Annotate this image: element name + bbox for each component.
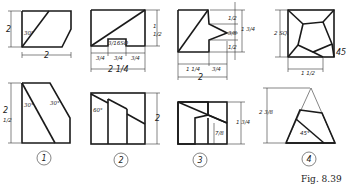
p2-dim-2: 3/4	[114, 55, 123, 61]
problem-2-top-view: 1 1/2 3/16SQ 3/4 3/4 3/4 2 1/4	[91, 10, 162, 74]
p3-overall-dim: 2	[198, 73, 203, 82]
p2-front-angle: 60°	[93, 107, 103, 113]
p2-front-height-dim: 2	[155, 114, 160, 123]
problem-2-number: 2	[118, 156, 123, 165]
p2-dim-3: 3/4	[131, 55, 140, 61]
p2-slot-label: 3/16SQ	[108, 40, 129, 46]
p3-dim-r3: 1/2	[228, 44, 237, 50]
technical-drawing: 2 30° 2 2 1/2 30° 30° 1 1 1/2 3/16SQ 3/4	[0, 0, 351, 189]
p3-dim-b1: 1 1/4	[186, 66, 201, 72]
p1-front-height-frac: 1/2	[3, 117, 12, 123]
p4-size-dim: 2 SQ.	[274, 30, 289, 36]
p1-top-height-dim: 2	[6, 25, 11, 34]
p1-front-angle-left: 30°	[24, 102, 34, 108]
p4-front-height-dim: 2 3/8	[259, 109, 274, 115]
problem-3-top-view: 1/2 3/8 1/2 1 3/4 1 1/4 3/4 2	[178, 2, 256, 82]
problem-1-number: 1	[41, 154, 46, 163]
p3-front-height-dim: 1 3/4	[236, 119, 251, 125]
p4-top-angle: 45	[336, 48, 346, 57]
p3-dim-r1: 1/2	[228, 15, 237, 21]
p3-inner-dim: 7/8	[215, 130, 224, 136]
p1-front-height-dim: 2	[3, 106, 8, 115]
p2-top-height-frac: 1/2	[153, 31, 162, 37]
problem-4-number: 4	[306, 155, 311, 164]
p3-dim-r2: 3/8	[228, 30, 237, 36]
problem-3-number: 3	[197, 156, 202, 165]
p2-top-height-whole: 1	[153, 23, 157, 29]
problem-1-front-view: 2 1/2 30° 30°	[3, 83, 70, 143]
p4-bottom-dim: 1 1/2	[301, 70, 316, 76]
p4-front-angle: 45°	[300, 130, 310, 136]
figure-caption: Fig. 8.39	[301, 174, 342, 184]
problem-3-front-view: 1 3/4 7/8	[178, 102, 251, 144]
p1-top-angle: 30°	[24, 30, 34, 36]
p3-dim-b2: 3/4	[212, 66, 221, 72]
problem-1-top-view: 2 30°	[6, 11, 71, 58]
p2-overall-dim: 2 1/4	[108, 65, 129, 74]
p3-overall-right: 1 3/4	[241, 26, 256, 32]
p1-front-angle-right: 30°	[50, 100, 60, 106]
problem-4-front-view: 2 3/8 45°	[259, 88, 335, 143]
p1-width-dim: 2	[44, 51, 49, 60]
p2-dim-1: 3/4	[96, 55, 105, 61]
problem-2-front-view: 60° 2	[91, 93, 160, 144]
problem-4-top-view: 2 SQ. 45 1 1/2	[274, 10, 346, 76]
